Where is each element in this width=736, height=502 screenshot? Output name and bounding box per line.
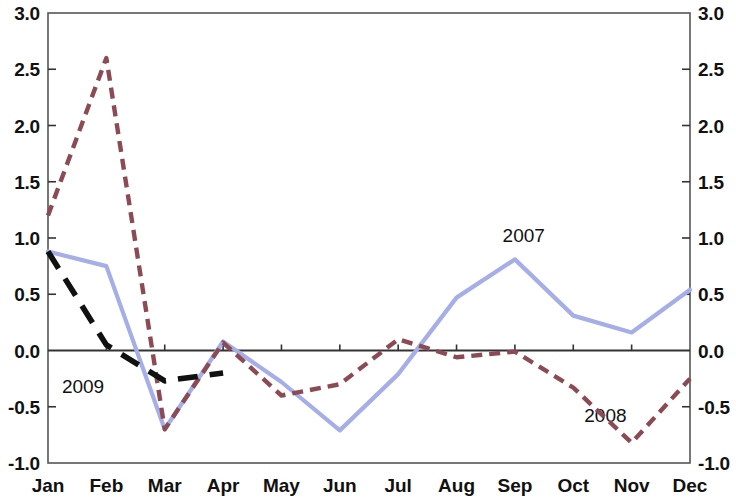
series-line-2008 xyxy=(48,58,690,443)
series-line-2007 xyxy=(48,252,690,431)
plot-frame xyxy=(48,13,690,463)
series-lines xyxy=(48,58,690,443)
series-line-2009 xyxy=(48,252,223,381)
chart-container: 3.02.52.01.51.00.50.0-0.5-1.0 3.02.52.01… xyxy=(0,0,736,502)
plot-area xyxy=(0,0,736,502)
tick-marks xyxy=(48,69,690,407)
